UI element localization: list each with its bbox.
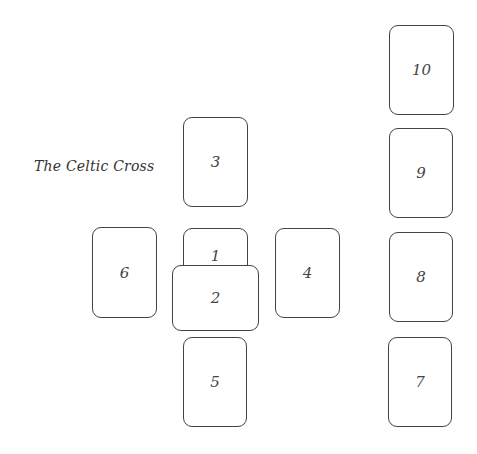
card-number: 2 [211,289,221,307]
card-number: 4 [303,264,313,282]
card-number: 1 [211,247,221,265]
card-position-6[interactable]: 6 [92,227,157,318]
card-number: 7 [415,373,425,391]
card-position-3[interactable]: 3 [183,117,248,207]
card-position-8[interactable]: 8 [389,232,453,322]
card-number: 10 [412,61,431,79]
card-number: 3 [211,153,221,171]
spread-title: The Celtic Cross [34,158,154,174]
card-position-7[interactable]: 7 [388,337,452,427]
card-number: 9 [416,164,426,182]
card-number: 5 [210,373,220,391]
card-number: 8 [416,268,426,286]
card-position-2[interactable]: 2 [172,265,259,331]
card-position-9[interactable]: 9 [389,128,453,218]
card-position-4[interactable]: 4 [275,228,340,318]
card-position-5[interactable]: 5 [183,337,247,427]
card-number: 6 [120,264,130,282]
card-position-10[interactable]: 10 [389,25,454,115]
